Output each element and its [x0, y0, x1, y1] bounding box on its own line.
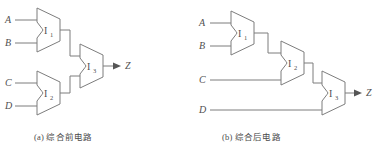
output-b-label-z: Z — [366, 87, 372, 98]
diagram-b: I 1 I 2 I 3 A B C D Z — [198, 11, 372, 115]
mux-i2-body — [37, 71, 60, 115]
caption-diagram-b: (b) 综合后电路 — [222, 130, 281, 142]
input-b-label-c: C — [199, 74, 206, 85]
mux-i3-subscript: 3 — [93, 67, 96, 74]
mux-b-i1-body — [231, 11, 254, 55]
input-label-d: D — [4, 100, 13, 111]
mux-i3-label: I — [87, 61, 90, 72]
wire-i2-to-i3 — [60, 76, 80, 93]
input-label-a: A — [4, 14, 12, 25]
diagram-a: I 1 I 2 I 3 A B C D Z — [4, 8, 131, 115]
caption-diagram-a: (a) 综合前电路 — [34, 130, 92, 142]
mux-b-i1-subscript: 1 — [244, 34, 247, 41]
wire-i1-to-i3 — [60, 30, 80, 56]
mux-i1-label: I — [44, 25, 47, 36]
input-b-label-d: D — [198, 104, 207, 115]
input-label-b: B — [5, 37, 11, 48]
mux-i1-subscript: 1 — [50, 31, 53, 38]
input-label-c: C — [5, 77, 12, 88]
input-b-label-b: B — [199, 40, 205, 51]
mux-b-i3-body — [322, 71, 345, 115]
mux-b-i2-label: I — [288, 58, 291, 69]
mux-i2-label: I — [44, 88, 47, 99]
mux-i3-body — [80, 44, 103, 88]
mux-b-i2-body — [281, 41, 304, 85]
mux-b-i3-subscript: 3 — [335, 94, 338, 101]
mux-b-i2-subscript: 2 — [294, 64, 297, 71]
mux-b-i3-label: I — [329, 88, 332, 99]
output-label-z: Z — [125, 60, 131, 71]
mux-i1-body — [37, 8, 60, 52]
mux-i2-subscript: 2 — [50, 94, 53, 101]
input-b-label-a: A — [198, 17, 206, 28]
wire-b-i2-to-i3 — [304, 63, 322, 83]
arrow-b-output-z-icon — [354, 90, 362, 97]
wire-b-i1-to-i2 — [254, 33, 281, 53]
arrow-output-z-icon — [113, 63, 121, 70]
mux-b-i1-label: I — [238, 28, 241, 39]
